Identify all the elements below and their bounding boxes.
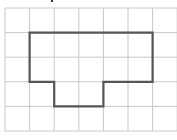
grid-diagram xyxy=(0,0,177,140)
grid-lines xyxy=(5,8,177,131)
top-mark xyxy=(51,0,53,2)
polygon-shape xyxy=(30,33,153,107)
